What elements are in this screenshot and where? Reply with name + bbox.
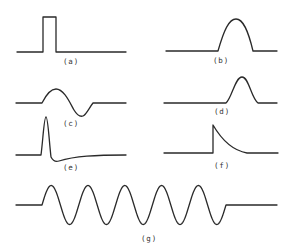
panel-d: (d) [164, 77, 277, 116]
panel-b-label: (b) [213, 56, 229, 65]
panel-d-label: (d) [214, 107, 230, 116]
panel-c-label: (c) [63, 119, 79, 128]
single-cycle-sine-waveform [16, 89, 126, 116]
panel-f-label: (f) [214, 161, 230, 170]
panel-e-label: (e) [63, 163, 79, 172]
panel-g: (g) [16, 186, 277, 244]
panel-a: (a) [17, 17, 126, 66]
panel-c: (c) [16, 89, 126, 128]
tone-burst-waveform [16, 186, 277, 225]
panel-f: (f) [164, 125, 278, 170]
half-sine-pulse-waveform [166, 19, 277, 51]
step-decay-waveform [164, 125, 278, 153]
panel-b: (b) [166, 19, 277, 65]
rectangular-pulse-waveform [17, 17, 126, 52]
waveform-figure: (a) (b) (c) (d) (e) (f) (g) [0, 0, 297, 252]
panel-a-label: (a) [63, 57, 79, 66]
panel-g-label: (g) [141, 234, 157, 243]
gaussian-pulse-waveform [164, 77, 277, 103]
